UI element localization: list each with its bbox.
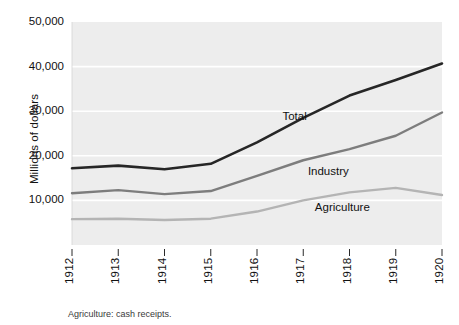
y-axis-tick-label: 40,000 [12,60,64,72]
x-axis-tick-label: 1913 [109,258,127,302]
x-axis-tick-label: 1912 [63,258,81,302]
chart-footnote: Agriculture: cash receipts. [68,309,172,319]
y-axis-tick-label: 30,000 [12,104,64,116]
y-axis-tick-label: 10,000 [12,193,64,205]
chart-figure: Millions of dollars 10,00020,00030,00040… [0,0,459,325]
x-axis-tick-label: 1915 [202,258,220,302]
x-axis-tick-label: 1916 [248,258,266,302]
x-axis-tick-label: 1914 [156,258,174,302]
x-axis-tick-label: 1917 [294,258,312,302]
x-axis-tick-marks [72,249,442,256]
series-label-agriculture: Agriculture [315,201,370,213]
y-axis-tick-label: 20,000 [12,149,64,161]
series-label-industry: Industry [308,165,349,177]
x-axis-tick-label: 1919 [387,258,405,302]
x-axis-tick-label: 1918 [341,258,359,302]
series-label-total: Total [282,110,306,122]
x-axis-tick-label: 1920 [433,258,451,302]
y-axis-tick-label: 50,000 [12,15,64,27]
